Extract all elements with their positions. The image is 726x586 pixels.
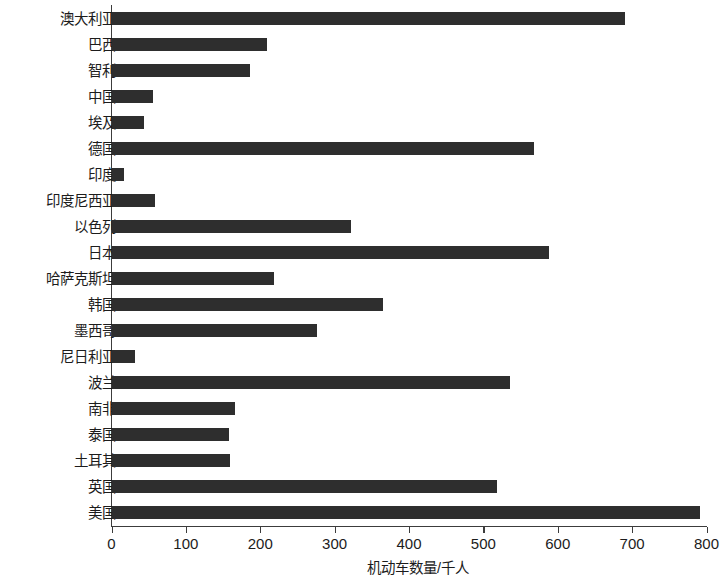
bar [112, 324, 317, 337]
bar-row: 墨西哥 [0, 318, 726, 344]
bar-row: 泰国 [0, 422, 726, 448]
bar-row: 哈萨克斯坦 [0, 266, 726, 292]
category-label: 印度尼西亚 [0, 190, 116, 212]
bar-row: 土耳其 [0, 448, 726, 474]
x-tick-mark [483, 527, 484, 533]
category-label: 澳大利亚 [0, 8, 116, 30]
bar-row: 埃及 [0, 110, 726, 136]
bar [112, 506, 700, 519]
category-label: 哈萨克斯坦 [0, 268, 116, 290]
x-tick-mark [707, 527, 708, 533]
category-label: 韩国 [0, 294, 116, 316]
x-tick-label: 700 [602, 535, 662, 553]
plot-area: 澳大利亚巴西智利中国埃及德国印度印度尼西亚以色列日本哈萨克斯坦韩国墨西哥尼日利亚… [0, 0, 726, 527]
bar [112, 298, 383, 311]
bar [112, 90, 153, 103]
category-label: 日本 [0, 242, 116, 264]
bar [112, 428, 229, 441]
bar [112, 38, 267, 51]
category-label: 巴西 [0, 34, 116, 56]
bar-row: 南非 [0, 396, 726, 422]
category-label: 美国 [0, 502, 116, 524]
category-label: 南非 [0, 398, 116, 420]
bar [112, 272, 274, 285]
bar-row: 美国 [0, 500, 726, 526]
bar-row: 日本 [0, 240, 726, 266]
bar-row: 印度 [0, 162, 726, 188]
category-label: 尼日利亚 [0, 346, 116, 368]
category-label: 德国 [0, 138, 116, 160]
bar-row: 德国 [0, 136, 726, 162]
x-tick-label: 500 [453, 535, 513, 553]
category-label: 以色列 [0, 216, 116, 238]
x-tick-label: 200 [230, 535, 290, 553]
category-label: 波兰 [0, 372, 116, 394]
x-tick-label: 300 [305, 535, 365, 553]
bar-row: 澳大利亚 [0, 6, 726, 32]
bar [112, 142, 534, 155]
bar-row: 智利 [0, 58, 726, 84]
bar-row: 巴西 [0, 32, 726, 58]
x-tick-label: 800 [677, 535, 726, 553]
bar [112, 168, 124, 181]
category-label: 印度 [0, 164, 116, 186]
bar [112, 376, 510, 389]
bar [112, 246, 549, 259]
bar [112, 454, 230, 467]
x-axis-title: 机动车数量/千人 [0, 558, 726, 578]
category-label: 泰国 [0, 424, 116, 446]
bar-row: 尼日利亚 [0, 344, 726, 370]
category-label: 中国 [0, 86, 116, 108]
category-label: 智利 [0, 60, 116, 82]
x-tick-label: 400 [379, 535, 439, 553]
bar [112, 402, 235, 415]
x-tick-mark [260, 527, 261, 533]
bar [112, 64, 250, 77]
category-label: 墨西哥 [0, 320, 116, 342]
bar [112, 220, 351, 233]
bar-row: 以色列 [0, 214, 726, 240]
bar [112, 116, 144, 129]
bar [112, 480, 497, 493]
bar-row: 英国 [0, 474, 726, 500]
x-tick-mark [632, 527, 633, 533]
x-tick-label: 100 [156, 535, 216, 553]
bar-row: 韩国 [0, 292, 726, 318]
bar-row: 波兰 [0, 370, 726, 396]
x-tick-mark [112, 527, 113, 533]
x-tick-mark [186, 527, 187, 533]
bar-chart: 澳大利亚巴西智利中国埃及德国印度印度尼西亚以色列日本哈萨克斯坦韩国墨西哥尼日利亚… [0, 0, 726, 586]
category-label: 埃及 [0, 112, 116, 134]
x-tick-label: 600 [528, 535, 588, 553]
x-tick-mark [558, 527, 559, 533]
bar [112, 194, 155, 207]
category-label: 英国 [0, 476, 116, 498]
bar [112, 12, 625, 25]
category-label: 土耳其 [0, 450, 116, 472]
bar-row: 中国 [0, 84, 726, 110]
x-tick-label: 0 [82, 535, 142, 553]
x-tick-mark [409, 527, 410, 533]
x-tick-mark [335, 527, 336, 533]
bar [112, 350, 135, 363]
bar-row: 印度尼西亚 [0, 188, 726, 214]
